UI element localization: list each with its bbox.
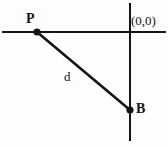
point-p-marker bbox=[33, 28, 40, 35]
point-p-label: P bbox=[26, 12, 35, 26]
point-b-label: B bbox=[136, 102, 145, 116]
origin-coordinate-label: (0,0) bbox=[131, 14, 156, 27]
geometry-diagram: P B d (0,0) bbox=[0, 0, 168, 147]
segment-pb-line bbox=[37, 32, 130, 110]
point-b-marker bbox=[126, 106, 133, 113]
distance-d-label: d bbox=[64, 70, 71, 83]
